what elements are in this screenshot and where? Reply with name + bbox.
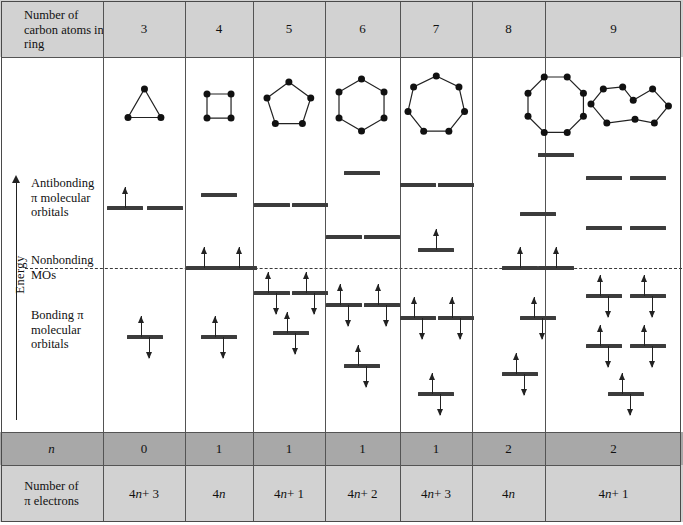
table-border [1,1,681,522]
mo-diagram-figure: Number of carbon atoms in ring Energy An… [0,0,683,525]
